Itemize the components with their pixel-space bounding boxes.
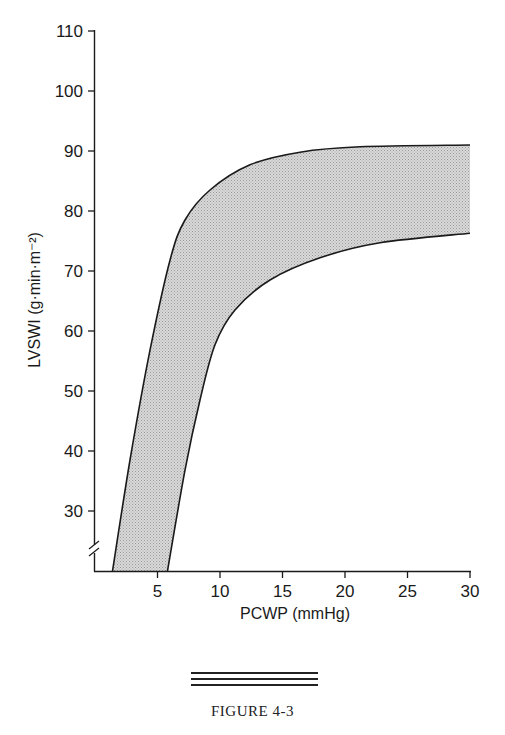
- y-tick-label: 60: [64, 322, 83, 341]
- y-axis-title: LVSWI (g·min·m⁻²): [26, 232, 43, 368]
- y-tick-label: 110: [56, 22, 83, 41]
- figure-caption: FIGURE 4-3: [0, 703, 505, 720]
- x-axis-title: PCWP (mmHg): [240, 605, 350, 622]
- x-axis-ticks: 51015202530: [153, 572, 480, 602]
- y-tick-label: 100: [55, 82, 83, 101]
- y-tick-label: 80: [64, 202, 83, 221]
- x-tick-label: 25: [398, 582, 417, 601]
- y-tick-label: 50: [64, 382, 83, 401]
- chart: 30405060708090100110 51015202530 PCWP (m…: [0, 0, 505, 735]
- caption-rule-1: [191, 672, 318, 674]
- x-tick-label: 20: [336, 582, 355, 601]
- x-tick-label: 10: [211, 582, 230, 601]
- x-tick-label: 30: [461, 582, 480, 601]
- caption-rule-2: [191, 678, 318, 680]
- x-tick-label: 15: [273, 582, 292, 601]
- y-tick-label: 40: [64, 442, 83, 461]
- y-axis-ticks: 30405060708090100110: [55, 22, 95, 521]
- shaded-band: [113, 145, 471, 571]
- caption-rule-3: [191, 684, 318, 686]
- y-tick-label: 30: [64, 502, 83, 521]
- x-tick-label: 5: [153, 582, 162, 601]
- y-tick-label: 90: [64, 142, 83, 161]
- y-tick-label: 70: [64, 262, 83, 281]
